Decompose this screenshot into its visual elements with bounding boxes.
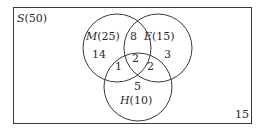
- m-h-intersection-value: 1: [115, 60, 122, 73]
- e-h-intersection-value: 2: [147, 60, 154, 73]
- outside-value: 15: [235, 108, 249, 121]
- venn-diagram: S(50) M(25) 14 E(15) 3 8 2 1 2 5 H(10) 1…: [0, 0, 264, 130]
- set-m-only-value: 14: [92, 48, 106, 61]
- set-e-circle: [124, 14, 192, 82]
- set-h-only-value: 5: [134, 80, 141, 93]
- set-m-label: M(25): [85, 30, 120, 43]
- m-e-h-intersection-value: 2: [132, 52, 139, 65]
- set-e-only-value: 3: [164, 48, 171, 61]
- m-e-intersection-value: 8: [130, 30, 137, 43]
- set-e-label: E(15): [143, 30, 175, 43]
- set-h-label: H(10): [119, 94, 152, 107]
- universe-label: S(50): [17, 12, 47, 25]
